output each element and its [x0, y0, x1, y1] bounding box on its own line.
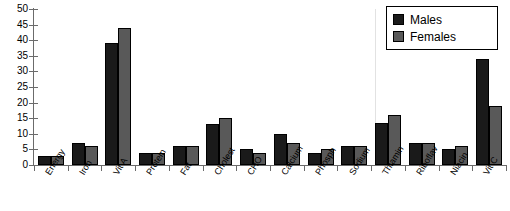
x-axis-tick — [371, 165, 372, 171]
bar-group — [337, 9, 371, 165]
bar-females — [118, 28, 131, 165]
bar-group — [203, 9, 237, 165]
x-axis-tick — [34, 165, 35, 171]
x-axis-tick — [101, 165, 102, 171]
x-axis-tick — [472, 165, 473, 171]
bar-group — [68, 9, 102, 165]
x-axis-tick — [439, 165, 440, 171]
x-axis-tick — [506, 165, 507, 171]
x-axis-tick — [304, 165, 305, 171]
y-axis-tick-label: 0 — [2, 160, 28, 170]
legend-label-males: Males — [410, 14, 442, 26]
x-axis-tick — [203, 165, 204, 171]
bar-chart: 05101520253035404550 EnergyIronVit AProt… — [0, 0, 510, 211]
x-axis-tick — [236, 165, 237, 171]
x-axis-tick — [270, 165, 271, 171]
y-axis-tick-label: 15 — [2, 113, 28, 123]
bar-group — [270, 9, 304, 165]
bar-males — [105, 43, 118, 165]
bar-males — [476, 59, 489, 165]
legend-swatch-females-icon — [393, 31, 404, 42]
y-axis: 05101520253035404550 — [0, 0, 28, 211]
x-axis-tick — [68, 165, 69, 171]
y-axis-tick-label: 45 — [2, 20, 28, 30]
legend-item-males: Males — [393, 11, 491, 28]
y-axis-tick-label: 50 — [2, 4, 28, 14]
x-axis-tick — [135, 165, 136, 171]
legend-swatch-males-icon — [393, 14, 404, 25]
y-axis-tick-label: 40 — [2, 35, 28, 45]
chart-legend: Males Females — [386, 6, 498, 50]
bar-males — [375, 123, 388, 165]
bar-group — [34, 9, 68, 165]
bar-males — [206, 124, 219, 165]
bar-group — [304, 9, 338, 165]
legend-item-females: Females — [393, 28, 491, 45]
x-axis-tick — [405, 165, 406, 171]
bar-group — [169, 9, 203, 165]
y-axis-tick-label: 35 — [2, 51, 28, 61]
y-axis-tick-label: 5 — [2, 144, 28, 154]
legend-label-females: Females — [410, 31, 456, 43]
bar-group — [135, 9, 169, 165]
y-axis-tick-label: 30 — [2, 66, 28, 76]
y-axis-tick-label: 20 — [2, 98, 28, 108]
bar-group — [101, 9, 135, 165]
y-axis-tick-label: 10 — [2, 129, 28, 139]
x-axis-tick — [337, 165, 338, 171]
bar-group — [236, 9, 270, 165]
x-axis-tick — [169, 165, 170, 171]
y-axis-tick-label: 25 — [2, 82, 28, 92]
